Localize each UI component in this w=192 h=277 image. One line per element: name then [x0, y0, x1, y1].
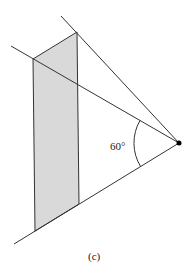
angle-label: 60° [110, 140, 125, 152]
apex-point [177, 141, 182, 146]
figure-caption: (c) [88, 250, 101, 263]
diagram-canvas: 60° (c) [0, 0, 192, 277]
upper-ray [61, 16, 179, 143]
angle-arc [134, 121, 141, 167]
shaded-region [33, 32, 79, 231]
